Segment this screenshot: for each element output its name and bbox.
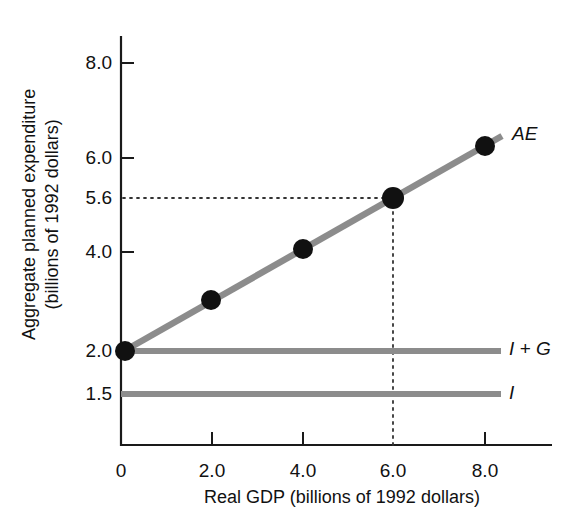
series-label-i-plus-g: I + G [509,338,551,360]
data-point-ae-4 [293,239,313,259]
data-point-ae-8 [475,136,495,156]
data-point-ae-2 [201,290,221,310]
chart-figure: 8.0 6.0 5.6 4.0 2.0 1.5 0 2.0 4.0 6.0 8.… [0,0,568,525]
x-tick-label-8: 8.0 [472,460,498,482]
y-tick-label-1-5: 1.5 [62,383,112,405]
x-tick-label-2: 2.0 [199,460,225,482]
y-tick-label-5-6: 5.6 [62,187,112,209]
x-tick-label-6: 6.0 [380,460,406,482]
x-tick-label-0: 0 [116,460,127,482]
x-axis-title: Real GDP (billions of 1992 dollars) [204,487,480,508]
y-tick-label-2: 2.0 [62,340,112,362]
y-axis-title: Aggregate planned expenditure (billions … [18,89,63,340]
series-label-i: I [509,382,514,404]
y-axis-title-line1: Aggregate planned expenditure [18,89,41,340]
y-tick-label-6: 6.0 [62,147,112,169]
data-point-ae-0 [115,341,135,361]
y-axis-title-line2: (billions of 1992 dollars) [41,89,64,340]
y-tick-label-8: 8.0 [62,52,112,74]
data-point-ae-6 [382,187,404,209]
series-label-ae: AE [512,123,537,145]
x-tick-label-4: 4.0 [290,460,316,482]
y-tick-label-4: 4.0 [62,241,112,263]
series-line-ae [124,136,502,351]
